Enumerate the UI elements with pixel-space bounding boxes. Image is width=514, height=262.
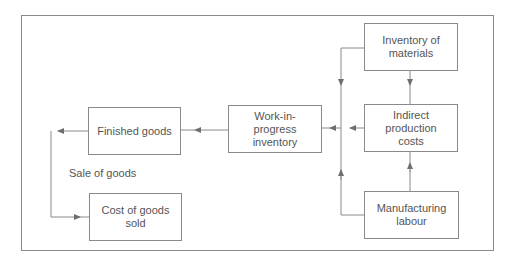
node-label: Inventory of materials: [382, 34, 439, 60]
node-indirect-production-costs: Indirect production costs: [364, 104, 458, 152]
node-inventory-of-materials: Inventory of materials: [364, 23, 458, 71]
node-cost-of-goods-sold: Cost of goods sold: [89, 193, 182, 241]
node-finished-goods: Finished goods: [88, 107, 181, 155]
node-label: Work-in- progress inventory: [253, 110, 298, 149]
node-label: Finished goods: [97, 125, 172, 138]
node-manufacturing-labour: Manufacturing labour: [364, 191, 459, 239]
edge-label-sale-of-goods: Sale of goods: [69, 167, 136, 179]
node-label: Manufacturing labour: [377, 202, 447, 228]
node-label: Cost of goods sold: [102, 204, 170, 230]
node-label: Indirect production costs: [385, 109, 436, 148]
node-work-in-progress-inventory: Work-in- progress inventory: [228, 105, 322, 153]
